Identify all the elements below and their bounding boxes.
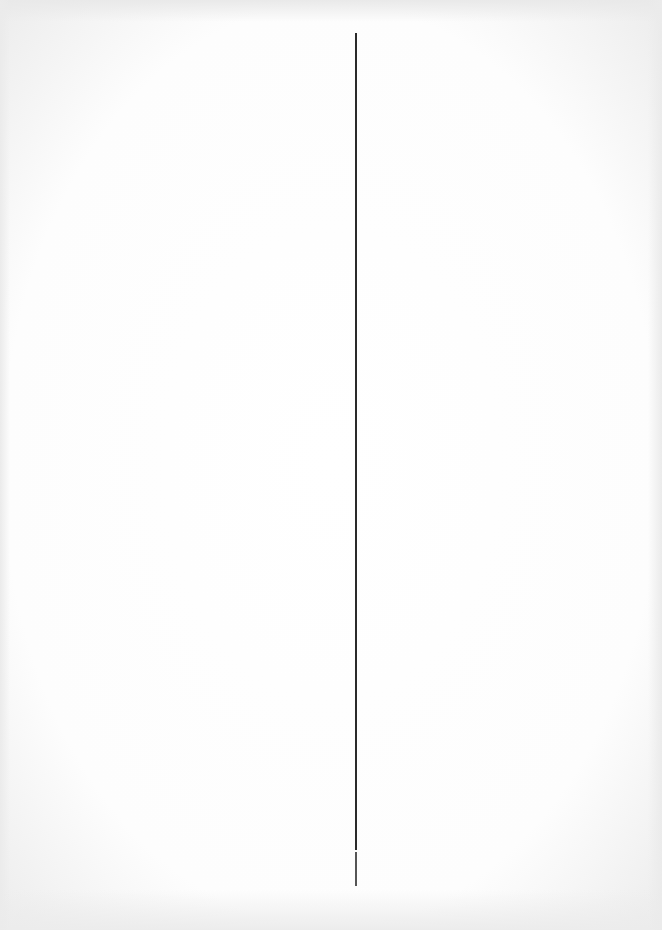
column-divider-line xyxy=(355,33,357,850)
scanned-page xyxy=(0,0,662,930)
scan-shadow-left xyxy=(0,0,10,930)
scan-shadow-right xyxy=(648,0,662,930)
column-divider-line-tail xyxy=(355,852,357,886)
scan-shadow-top xyxy=(0,0,662,22)
scan-shadow-bottom xyxy=(0,890,662,930)
